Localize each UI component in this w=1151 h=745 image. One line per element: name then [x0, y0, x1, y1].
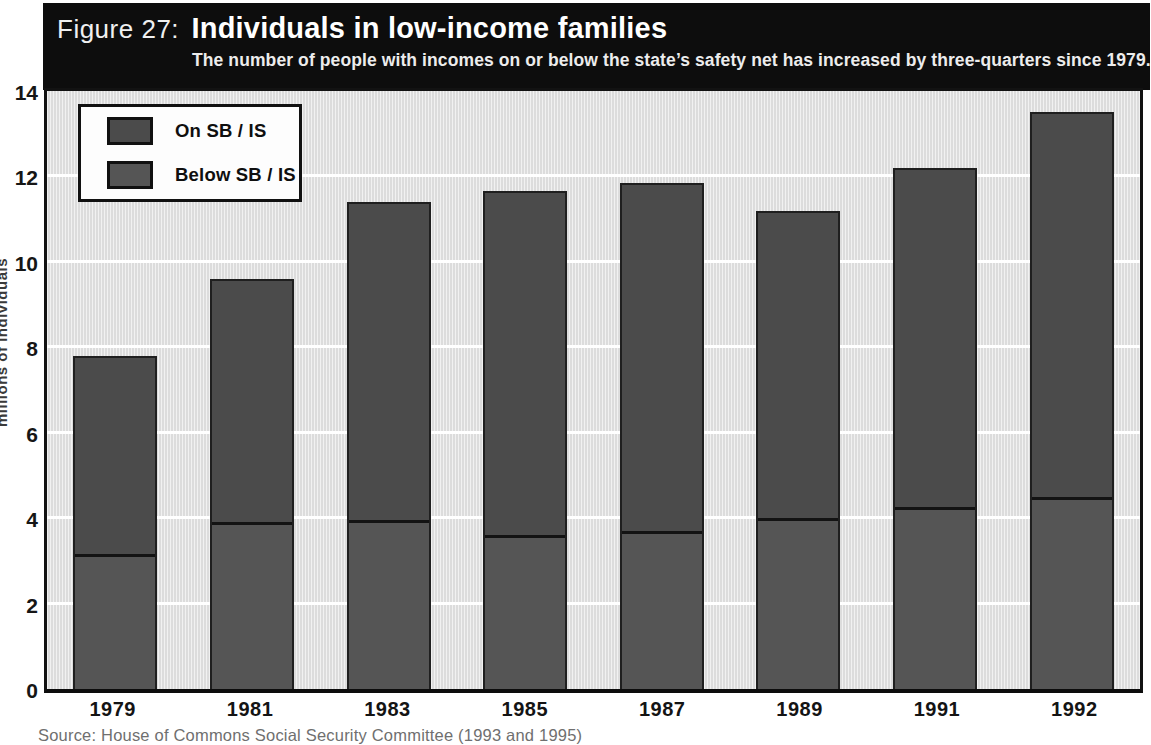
x-tick-label-1979: 1979 [44, 698, 181, 722]
y-tick-label-0: 0 [0, 679, 38, 703]
plot-area: On SB / IS Below SB / IS [44, 88, 1143, 693]
figure-header-band: Figure 27: Individuals in low-income fam… [43, 3, 1150, 90]
bar-segment-below-sb-is-1987 [622, 531, 702, 689]
bar-segment-on-sb-is-1983 [349, 204, 429, 520]
bar-segment-below-sb-is-1992 [1032, 497, 1112, 689]
figure-title: Individuals in low-income families [192, 12, 668, 44]
x-tick-label-1987: 1987 [594, 698, 731, 722]
x-tick-label-1992: 1992 [1006, 698, 1143, 722]
bar-segment-on-sb-is-1991 [895, 170, 975, 508]
bar-segment-on-sb-is-1985 [485, 193, 565, 535]
bar-segment-below-sb-is-1989 [758, 518, 838, 689]
bar-1981 [210, 279, 294, 689]
legend-label-on-sb-is: On SB / IS [175, 120, 266, 142]
legend-swatch-below-sb-is-icon [107, 161, 153, 189]
x-tick-label-1985: 1985 [456, 698, 593, 722]
bar-segment-on-sb-is-1987 [622, 185, 702, 531]
bar-1989 [756, 211, 840, 689]
bar-1985 [483, 191, 567, 689]
y-tick-label-14: 14 [0, 81, 38, 105]
bar-segment-below-sb-is-1983 [349, 520, 429, 689]
x-tick-label-1989: 1989 [731, 698, 868, 722]
legend-row-below-sb-is: Below SB / IS [107, 161, 299, 189]
legend-swatch-on-sb-is-icon [107, 117, 153, 145]
y-tick-label-4: 4 [0, 508, 38, 532]
source-note: Source: House of Commons Social Security… [38, 726, 582, 745]
figure-subtitle: The number of people with incomes on or … [192, 50, 1140, 71]
bar-segment-on-sb-is-1979 [75, 358, 155, 555]
legend-label-below-sb-is: Below SB / IS [175, 164, 296, 186]
legend-row-on-sb-is: On SB / IS [107, 117, 299, 145]
x-tick-label-1981: 1981 [181, 698, 318, 722]
bar-segment-on-sb-is-1989 [758, 213, 838, 519]
bar-1987 [620, 183, 704, 689]
y-axis-title: millions of individuals [0, 258, 10, 427]
x-axis-labels: 19791981198319851987198919911992 [44, 698, 1143, 722]
bar-segment-below-sb-is-1991 [895, 507, 975, 689]
bar-1979 [73, 356, 157, 689]
x-tick-label-1983: 1983 [319, 698, 456, 722]
bar-1991 [893, 168, 977, 689]
bar-segment-below-sb-is-1979 [75, 554, 155, 689]
bar-1983 [347, 202, 431, 689]
y-tick-label-2: 2 [0, 594, 38, 618]
figure-number-label: Figure 27: [57, 14, 179, 44]
x-tick-label-1991: 1991 [868, 698, 1005, 722]
bar-segment-on-sb-is-1992 [1032, 114, 1112, 496]
bar-segment-below-sb-is-1985 [485, 535, 565, 689]
bar-segment-below-sb-is-1981 [212, 522, 292, 689]
bar-1992 [1030, 112, 1114, 689]
figure-title-line: Figure 27: Individuals in low-income fam… [57, 13, 1140, 43]
bar-segment-on-sb-is-1981 [212, 281, 292, 522]
legend: On SB / IS Below SB / IS [78, 104, 302, 202]
y-tick-label-12: 12 [0, 166, 38, 190]
